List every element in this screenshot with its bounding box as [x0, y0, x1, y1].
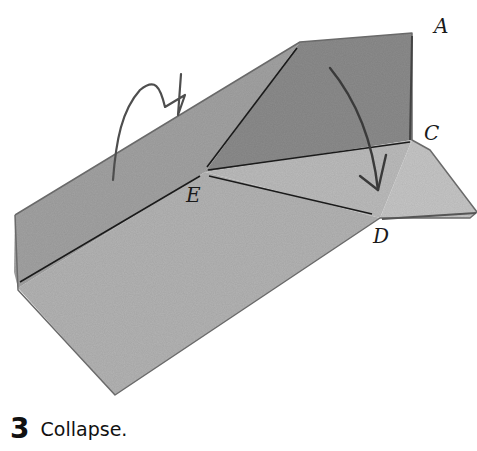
origami-diagram: A C E D [0, 0, 477, 451]
label-e: E [185, 183, 201, 207]
label-d: D [372, 224, 389, 248]
step-number: 3 [10, 412, 29, 445]
step-caption: 3 Collapse. [10, 412, 127, 445]
label-c: C [424, 121, 439, 145]
label-a: A [432, 14, 448, 38]
step-instruction: Collapse. [41, 418, 128, 440]
